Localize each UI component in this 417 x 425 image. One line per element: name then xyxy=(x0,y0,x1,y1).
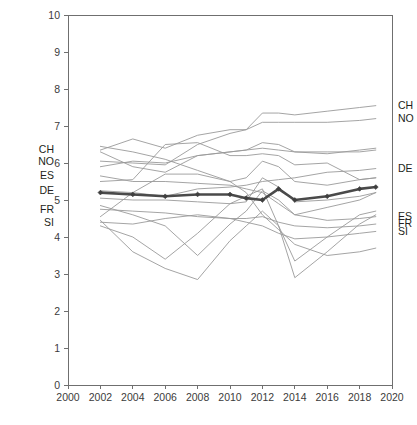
x-tick-label: 2004 xyxy=(121,391,145,403)
axis-frame xyxy=(68,15,392,385)
series-label-left-es: ES xyxy=(40,169,54,181)
x-tick-label: 2010 xyxy=(218,391,242,403)
highlight-data-point xyxy=(195,192,200,197)
y-tick-label: 2 xyxy=(54,305,60,317)
series-path xyxy=(100,143,375,173)
series-label-right-si: SI xyxy=(398,225,408,237)
line-chart-canvas: 012345678910 200020022004200620082010201… xyxy=(0,0,417,425)
x-tick-label: 2006 xyxy=(154,391,178,403)
y-tick-label: 3 xyxy=(54,268,60,280)
x-tick-label: 2018 xyxy=(348,391,372,403)
y-tick-label: 7 xyxy=(54,120,60,132)
y-tick-label: 4 xyxy=(54,231,60,243)
series-label-left-de: DE xyxy=(39,184,54,196)
y-tick-label: 5 xyxy=(54,194,60,206)
series-label-right-ch: CH xyxy=(398,99,413,111)
series-path xyxy=(100,146,375,255)
series-path xyxy=(100,169,375,197)
y-tick-label: 0 xyxy=(54,379,60,391)
x-axis: 2000200220042006200820102012201420162018… xyxy=(56,385,404,403)
y-tick-label: 9 xyxy=(54,46,60,58)
y-tick-label: 8 xyxy=(54,83,60,95)
chart-figure: 012345678910 200020022004200620082010201… xyxy=(0,0,417,425)
x-tick-label: 2008 xyxy=(186,391,210,403)
series-lines xyxy=(100,106,375,280)
y-axis: 012345678910 xyxy=(48,9,68,391)
highlight-data-point xyxy=(373,185,378,190)
y-tick-label: 10 xyxy=(48,9,60,21)
y-tick-label: 1 xyxy=(54,342,60,354)
x-tick-label: 2012 xyxy=(251,391,275,403)
series-label-left-no: NO xyxy=(38,155,54,167)
series-label-right-de: DE xyxy=(398,162,413,174)
series-path xyxy=(100,106,375,150)
x-tick-label: 2002 xyxy=(89,391,113,403)
series-label-right-no: NO xyxy=(398,112,414,124)
series-path xyxy=(100,209,375,228)
series-label-left-si: SI xyxy=(44,216,54,228)
highlight-data-point xyxy=(163,194,168,199)
x-tick-label: 2000 xyxy=(56,391,80,403)
series-path xyxy=(100,211,375,279)
y-tick-label: 6 xyxy=(54,157,60,169)
x-tick-label: 2016 xyxy=(316,391,340,403)
series-path xyxy=(100,176,375,220)
x-tick-label: 2020 xyxy=(380,391,404,403)
x-tick-label: 2014 xyxy=(283,391,307,403)
series-label-left-fr: FR xyxy=(40,203,54,215)
